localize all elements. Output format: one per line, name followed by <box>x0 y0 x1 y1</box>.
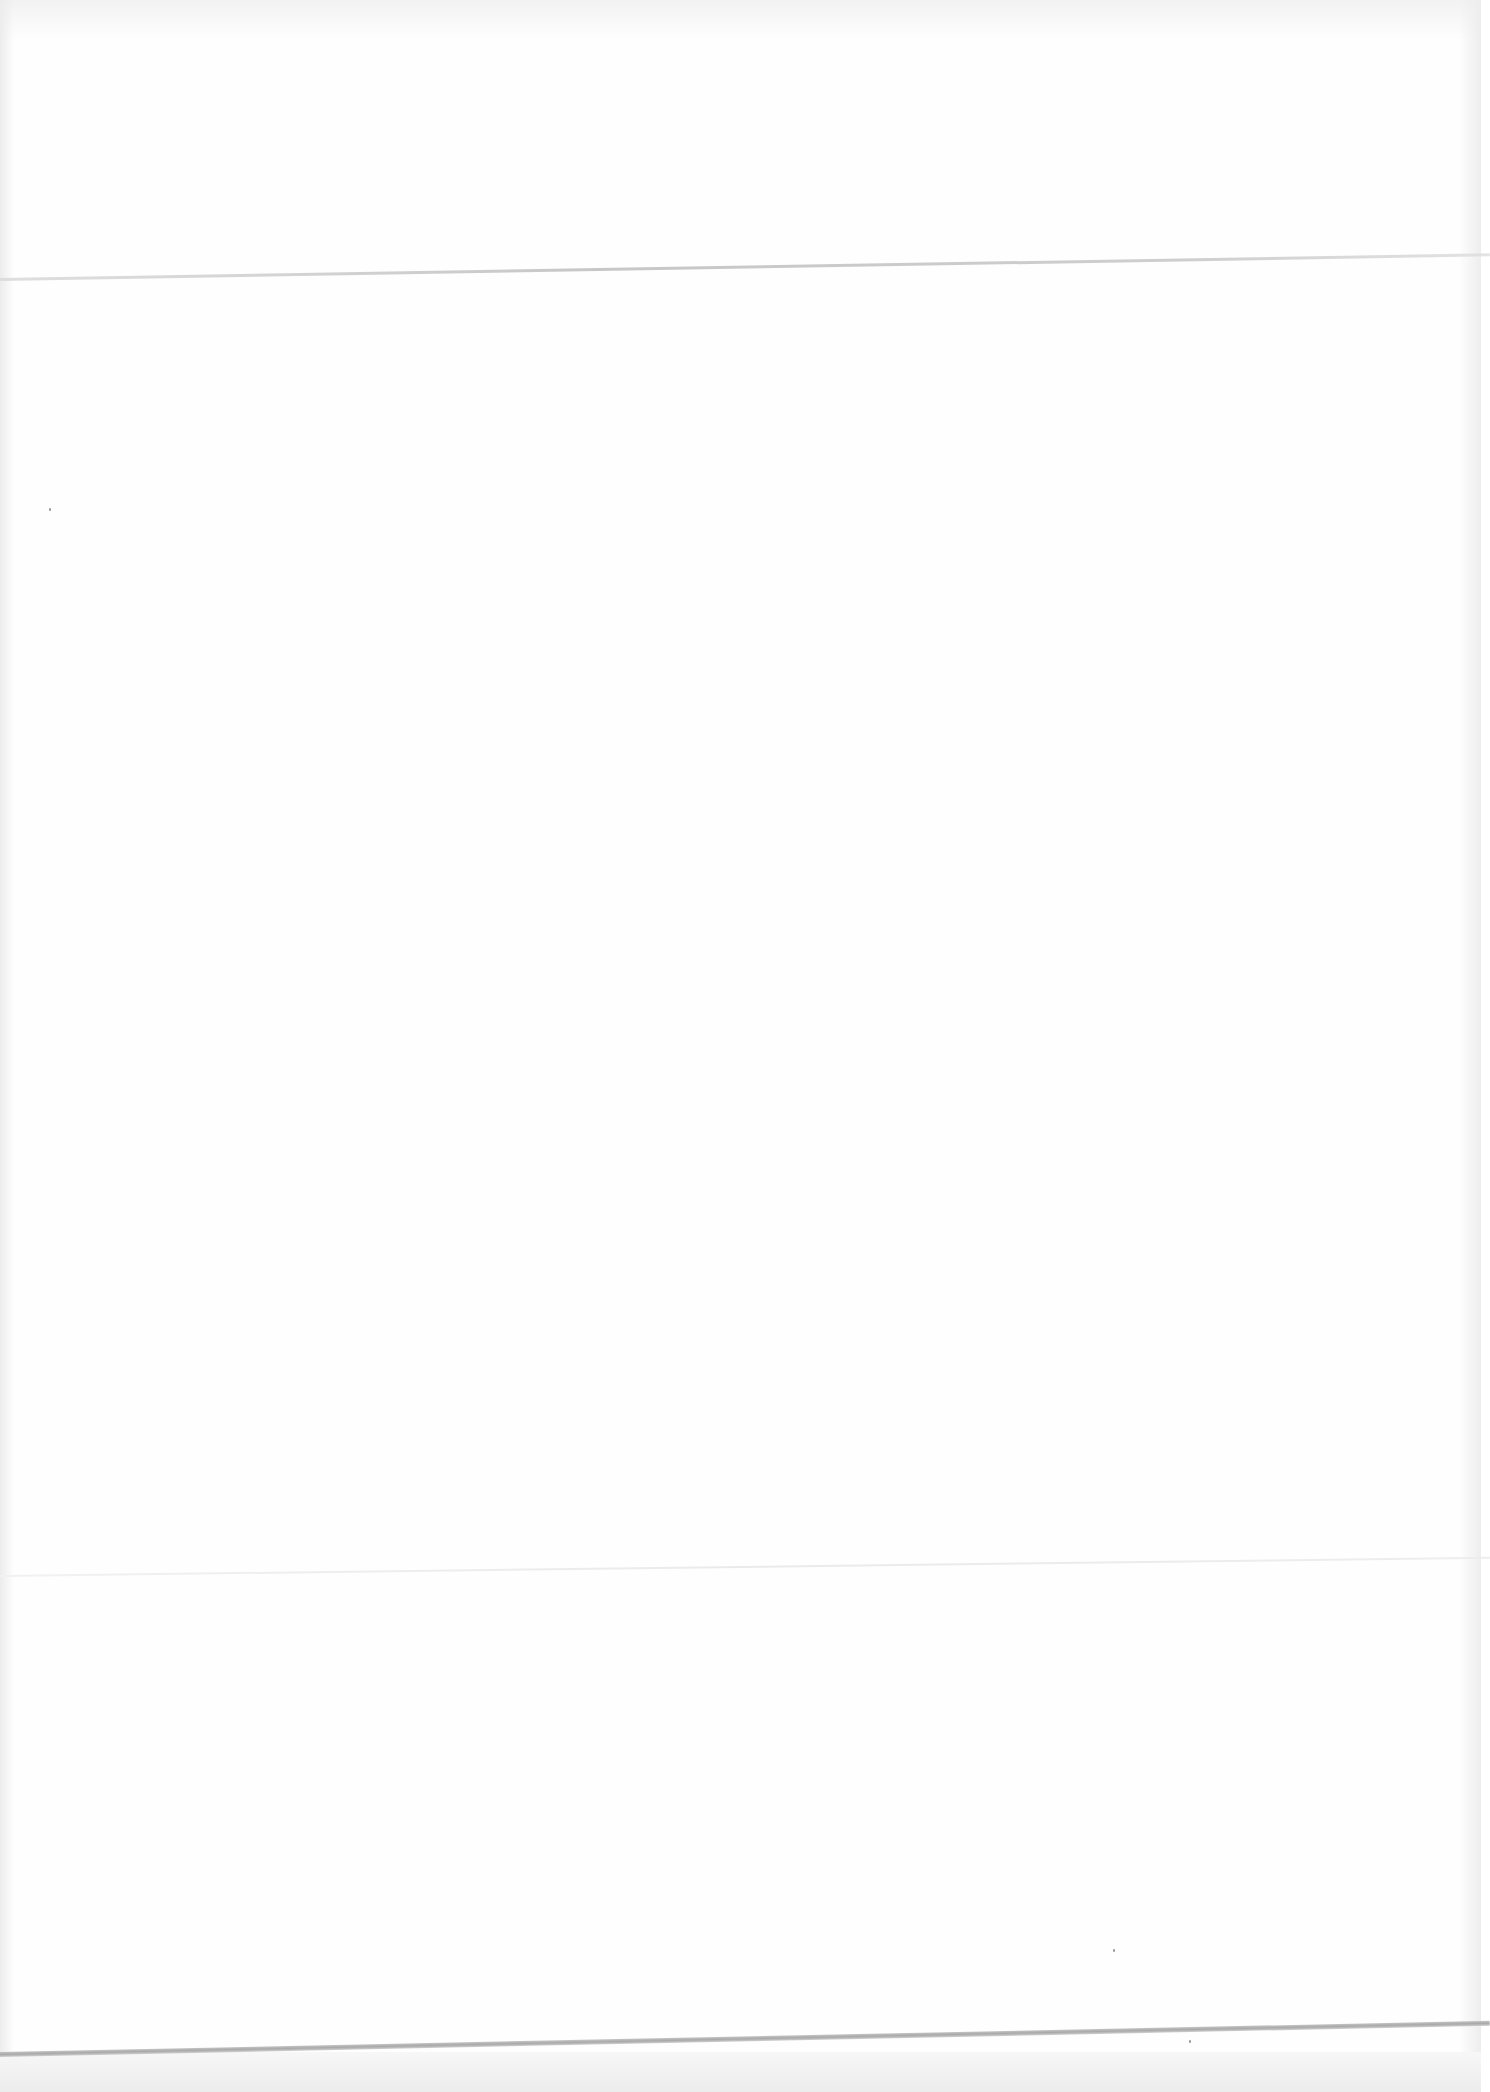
fold-crease-top <box>0 253 1490 281</box>
fold-crease-middle <box>0 1557 1490 1577</box>
paper-speck <box>49 508 51 511</box>
paper-speck <box>1113 1949 1115 1952</box>
top-edge-shading <box>0 0 1481 40</box>
scanner-bottom-strip <box>0 2052 1481 2092</box>
right-edge-shading <box>1459 0 1481 2092</box>
paper-speck <box>1189 2040 1191 2043</box>
left-edge-shading <box>0 0 14 2092</box>
